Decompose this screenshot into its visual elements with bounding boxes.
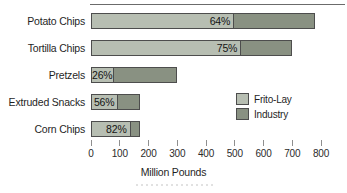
- category-label: Pretzels: [0, 69, 85, 81]
- cropped-text-artifact: [136, 184, 216, 186]
- axis-tick: [206, 140, 207, 146]
- frito-lay-segment: 64%: [92, 14, 234, 28]
- percent-label: 26%: [92, 68, 113, 82]
- chart-canvas: Potato Chips64%Tortilla Chips75%Pretzels…: [0, 0, 347, 193]
- axis-tick: [148, 140, 149, 146]
- percent-label: 75%: [92, 41, 240, 55]
- axis-tick: [91, 140, 92, 146]
- percent-label: 82%: [92, 122, 130, 136]
- legend-label: Frito-Lay: [254, 94, 292, 105]
- frito-lay-segment: 82%: [92, 122, 131, 136]
- axis-tick: [177, 140, 178, 146]
- legend-label: Industry: [254, 109, 288, 120]
- stacked-bar: 82%: [91, 121, 140, 137]
- frito-lay-segment: 75%: [92, 41, 241, 55]
- frito-lay-segment: 56%: [92, 95, 118, 109]
- x-axis-title: Million Pounds: [0, 166, 347, 178]
- category-label: Potato Chips: [0, 15, 85, 27]
- axis-tick: [292, 140, 293, 146]
- legend-item: Frito-Lay: [236, 93, 292, 105]
- category-label: Extruded Snacks: [0, 96, 85, 108]
- stacked-bar: 75%: [91, 40, 292, 56]
- axis-tick: [263, 140, 264, 146]
- frito-lay-segment: 26%: [92, 68, 114, 82]
- percent-label: 64%: [92, 14, 233, 28]
- axis-tick-label: 800: [304, 148, 338, 159]
- axis-tick: [234, 140, 235, 146]
- legend-item: Industry: [236, 108, 288, 120]
- percent-label: 56%: [92, 95, 117, 109]
- axis-tick: [321, 140, 322, 146]
- legend-swatch-industry: [236, 108, 249, 120]
- industry-segment: [131, 122, 139, 136]
- industry-segment: [234, 14, 314, 28]
- industry-segment: [118, 95, 139, 109]
- industry-segment: [114, 68, 176, 82]
- stacked-bar: 64%: [91, 13, 315, 29]
- category-label: Corn Chips: [0, 123, 85, 135]
- axis-tick: [119, 140, 120, 146]
- top-rule-line: [90, 4, 345, 5]
- legend-swatch-frito-lay: [236, 93, 249, 105]
- stacked-bar: 26%: [91, 67, 177, 83]
- stacked-bar: 56%: [91, 94, 140, 110]
- industry-segment: [241, 41, 291, 55]
- category-label: Tortilla Chips: [0, 42, 85, 54]
